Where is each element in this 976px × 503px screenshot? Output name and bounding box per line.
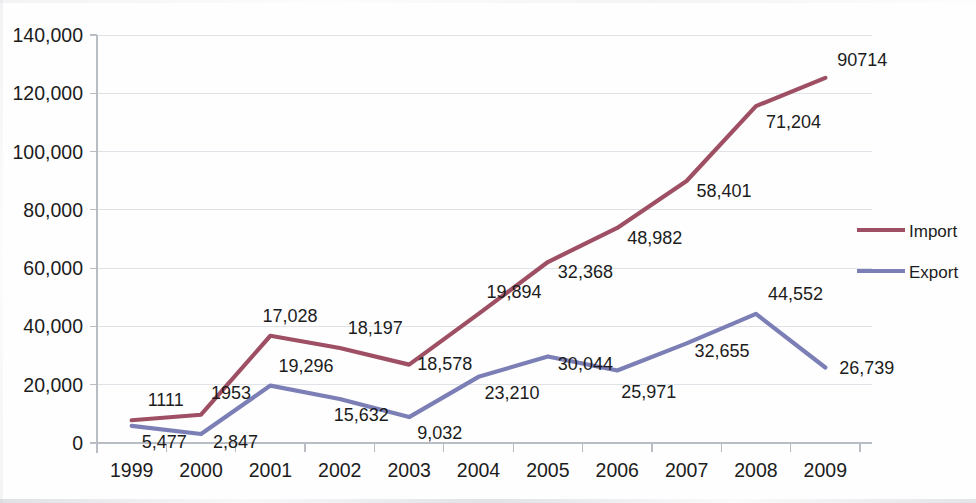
y-axis-tick-label: 80,000	[23, 199, 83, 221]
data-label-import: 17,028	[262, 306, 317, 326]
series-line-import	[132, 78, 826, 420]
line-chart-plot: 020,00040,00060,00080,000100,000120,0001…	[0, 0, 976, 503]
data-label-import: 32,368	[558, 262, 613, 282]
data-series-lines	[132, 78, 826, 434]
x-axis-tick-labels: 1999200020012002200320042005200620072008…	[110, 459, 847, 481]
data-label-import: 19,894	[487, 282, 542, 302]
data-label-export: 19,296	[278, 356, 333, 376]
data-label-export: 44,552	[768, 284, 823, 304]
data-label-import: 58,401	[697, 181, 752, 201]
x-axis-tick-label: 2002	[318, 459, 361, 481]
y-axis-tick-label: 140,000	[13, 24, 84, 46]
data-label-export: 30,044	[558, 354, 613, 374]
x-axis-tick-label: 2007	[665, 459, 708, 481]
x-axis-tick-label: 1999	[110, 459, 153, 481]
x-axis-tick-label: 2004	[457, 459, 501, 481]
y-axis-tick-label: 120,000	[13, 82, 84, 104]
x-axis-tick-label: 2006	[596, 459, 639, 481]
chart-legend: ImportExport	[857, 222, 958, 282]
data-label-import: 90714	[837, 50, 887, 70]
data-label-export: 26,739	[839, 358, 894, 378]
data-label-import: 71,204	[766, 112, 821, 132]
legend-label-import: Import	[909, 222, 957, 241]
x-axis-tick-label: 2003	[387, 459, 430, 481]
data-label-export: 25,971	[621, 382, 676, 402]
x-axis-tick-label: 2005	[526, 459, 570, 481]
data-label-import: 18,197	[348, 318, 403, 338]
x-axis-tick-label: 2001	[249, 459, 292, 481]
data-label-export: 32,655	[695, 341, 750, 361]
data-label-export: 15,632	[334, 405, 389, 425]
chart-container: 020,00040,00060,00080,000100,000120,0001…	[0, 0, 976, 503]
x-axis-tick-label: 2000	[179, 459, 223, 481]
legend-label-export: Export	[909, 263, 958, 282]
data-value-labels: 1111195317,02818,19718,57819,89432,36848…	[142, 50, 895, 452]
data-label-export: 23,210	[485, 383, 540, 403]
y-axis-tick-label: 0	[72, 432, 83, 454]
data-label-import: 1111	[148, 390, 184, 410]
y-axis-tick-label: 60,000	[23, 257, 83, 279]
x-axis-tick-label: 2008	[734, 459, 777, 481]
data-label-export: 9,032	[417, 423, 462, 443]
data-label-export: 2,847	[213, 432, 258, 452]
y-axis-tick-label: 100,000	[13, 141, 84, 163]
axes	[90, 35, 872, 453]
x-axis-tick-label: 2009	[804, 459, 847, 481]
y-axis-tick-label: 40,000	[23, 315, 83, 337]
data-label-import: 18,578	[417, 354, 472, 374]
y-axis-tick-labels: 020,00040,00060,00080,000100,000120,0001…	[13, 24, 84, 454]
data-label-import: 48,982	[627, 228, 682, 248]
y-axis-tick-label: 20,000	[23, 374, 83, 396]
data-label-export: 5,477	[142, 432, 187, 452]
data-label-import: 1953	[211, 383, 251, 403]
